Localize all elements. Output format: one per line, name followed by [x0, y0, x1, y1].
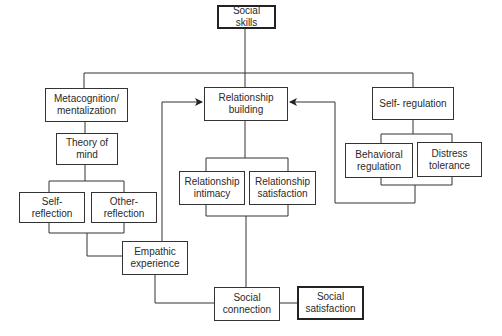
node-distress-tolerance: Distress tolerance [417, 142, 482, 177]
node-label: Relationship satisfaction [252, 176, 313, 200]
node-behavioral-regulation: Behavioral regulation [345, 143, 413, 178]
node-social-satisfaction: Social satisfaction [297, 286, 364, 320]
node-label: Self- reflection [22, 196, 82, 220]
node-label: Relationship building [207, 92, 285, 116]
node-empathic-experience: Empathic experience [122, 241, 188, 275]
node-relationship-satisfaction: Relationship satisfaction [249, 171, 316, 205]
node-relationship-intimacy: Relationship intimacy [179, 171, 245, 205]
node-metacognition-mentalization: Metacognition/ mentalization [45, 88, 128, 122]
node-self-reflection: Self- reflection [19, 192, 85, 223]
node-label: Social skills [221, 5, 272, 29]
node-label: Social satisfaction [301, 291, 360, 315]
node-label: Theory of mind [59, 137, 115, 161]
node-label: Social connection [217, 292, 277, 316]
node-label: Other- reflection [94, 196, 154, 220]
node-label: Behavioral regulation [348, 149, 410, 173]
node-label: Metacognition/ mentalization [48, 93, 125, 117]
node-label: Relationship intimacy [182, 176, 242, 200]
node-label: Distress tolerance [420, 148, 479, 172]
node-self-regulation: Self- regulation [372, 87, 454, 120]
node-label: Empathic experience [125, 246, 185, 270]
node-social-connection: Social connection [214, 287, 280, 321]
node-relationship-building: Relationship building [204, 87, 288, 121]
node-social-skills: Social skills [217, 5, 276, 29]
node-other-reflection: Other- reflection [91, 192, 157, 223]
node-label: Self- regulation [379, 98, 446, 110]
node-theory-of-mind: Theory of mind [56, 133, 118, 165]
